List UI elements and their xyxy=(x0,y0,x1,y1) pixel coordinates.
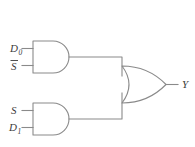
circuit-canvas: D 0 S S D 1 Y xyxy=(0,0,195,147)
wire-and-bottom-to-or xyxy=(69,93,122,119)
label-d1-subscript: 1 xyxy=(18,127,22,136)
label-s-bar: S xyxy=(11,60,17,72)
and-gate-bottom-body xyxy=(33,103,69,135)
logic-circuit-diagram: D 0 S S D 1 Y xyxy=(0,0,195,147)
label-d0-subscript: 0 xyxy=(19,48,23,57)
label-d0: D xyxy=(9,42,18,54)
label-d1: D xyxy=(8,121,17,133)
and-gate-top-body xyxy=(33,41,69,73)
or-gate-body xyxy=(122,66,166,103)
label-y-output: Y xyxy=(182,78,190,90)
label-s: S xyxy=(11,104,17,116)
wire-and-top-to-or xyxy=(69,57,122,76)
